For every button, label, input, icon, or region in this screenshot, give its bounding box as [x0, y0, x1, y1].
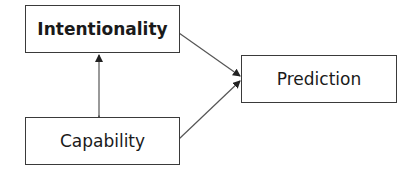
node-capability-label: Capability [60, 131, 145, 151]
node-prediction: Prediction [241, 55, 397, 103]
node-prediction-label: Prediction [277, 69, 361, 89]
edge-capability-prediction [179, 81, 240, 139]
node-intentionality: Intentionality [25, 5, 180, 53]
edge-intentionality-prediction [179, 33, 240, 76]
node-intentionality-label: Intentionality [37, 19, 167, 39]
node-capability: Capability [25, 117, 180, 165]
